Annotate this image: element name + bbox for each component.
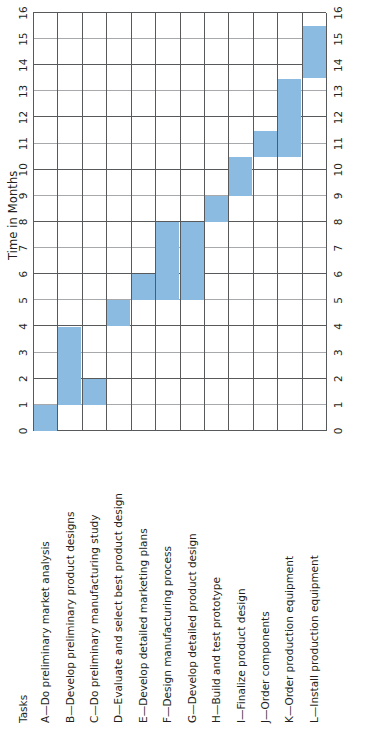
gridline-horizontal-2 (82, 13, 83, 431)
gantt-bar-E[interactable] (132, 274, 155, 300)
axis-tick-5: 5 (332, 290, 344, 310)
gantt-bar-B[interactable] (58, 327, 81, 405)
axis-tick-5: 5 (17, 290, 29, 310)
axis-tick-0: 0 (332, 421, 344, 441)
axis-tick-9: 9 (332, 186, 344, 206)
axis-tick-8: 8 (332, 212, 344, 232)
axis-tick-1: 1 (332, 395, 344, 415)
axis-tick-6: 6 (17, 264, 29, 284)
axis-tick-1: 1 (17, 395, 29, 415)
gantt-bar-H[interactable] (205, 196, 228, 222)
axis-tick-2: 2 (332, 369, 344, 389)
axis-tick-14: 14 (332, 55, 344, 75)
gantt-bar-F[interactable] (156, 222, 179, 300)
task-label-C: C—Do preliminary manufacturing study (89, 515, 100, 724)
task-label-K: K—Order production equipment (284, 556, 295, 723)
axis-tick-3: 3 (332, 343, 344, 363)
axis-tick-11: 11 (17, 134, 29, 154)
axis-tick-7: 7 (17, 238, 29, 258)
gridline-horizontal-7 (204, 13, 205, 431)
axis-tick-15: 15 (332, 29, 344, 49)
gridline-horizontal-8 (228, 13, 229, 431)
gridline-horizontal-10 (277, 13, 278, 431)
axis-tick-3: 3 (17, 343, 29, 363)
gridline-horizontal-9 (253, 13, 254, 431)
task-label-B: B—Develop preliminary product designs (65, 512, 76, 723)
gridline-horizontal-0 (33, 13, 34, 431)
axis-tick-10: 10 (332, 160, 344, 180)
axis-tick-16: 16 (332, 3, 344, 23)
axis-tick-14: 14 (17, 55, 29, 75)
axis-tick-13: 13 (332, 81, 344, 101)
gridline-horizontal-3 (106, 13, 107, 431)
gantt-bar-L[interactable] (303, 26, 326, 78)
gantt-bar-K[interactable] (278, 79, 301, 157)
gantt-bar-D[interactable] (107, 300, 130, 326)
axis-tick-9: 9 (17, 186, 29, 206)
task-label-E: E—Develop detailed marketing plans (138, 528, 149, 723)
task-label-L: L—Install production equipment (309, 555, 320, 723)
plot-area (33, 13, 326, 431)
axis-tick-12: 12 (17, 108, 29, 128)
gridline-horizontal-12 (326, 13, 327, 431)
gantt-bar-J[interactable] (254, 131, 277, 157)
task-label-D: D—Evaluate and select best product desig… (113, 493, 124, 723)
axis-tick-8: 8 (17, 212, 29, 232)
axis-tick-11: 11 (332, 134, 344, 154)
axis-tick-15: 15 (17, 29, 29, 49)
task-label-A: A—Do preliminary market analysis (40, 541, 51, 723)
gantt-bar-A[interactable] (34, 405, 57, 431)
axis-tick-6: 6 (332, 264, 344, 284)
gridline-horizontal-4 (131, 13, 132, 431)
task-label-G: G—Develop detailed product design (187, 533, 198, 723)
task-label-F: F—Design manufacturing process (162, 546, 173, 723)
gantt-bar-I[interactable] (229, 157, 252, 196)
task-label-H: H—Build and test prototype (211, 577, 222, 723)
axis-tick-0: 0 (17, 421, 29, 441)
axis-tick-16: 16 (17, 3, 29, 23)
gantt-chart: Time in Months Tasks 0123456789101112131… (0, 0, 369, 731)
tasks-column-header: Tasks (17, 695, 29, 723)
axis-tick-12: 12 (332, 108, 344, 128)
task-label-J: J—Order components (260, 611, 271, 723)
gantt-bar-C[interactable] (83, 379, 106, 405)
gantt-bar-G[interactable] (181, 222, 204, 300)
axis-tick-13: 13 (17, 81, 29, 101)
axis-tick-4: 4 (332, 317, 344, 337)
axis-tick-10: 10 (17, 160, 29, 180)
axis-tick-4: 4 (17, 317, 29, 337)
axis-tick-7: 7 (332, 238, 344, 258)
axis-tick-2: 2 (17, 369, 29, 389)
rotated-chart-stage: Time in Months Tasks 0123456789101112131… (0, 0, 369, 731)
task-label-I: I—Finalize product design (236, 588, 247, 723)
